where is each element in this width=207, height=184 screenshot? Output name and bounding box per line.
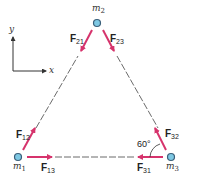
three-mass-force-diagram: y x m2 m1 m3 F21 F23 F12 F13 F32 F31 60° <box>0 0 207 184</box>
x-axis-label: x <box>49 66 54 75</box>
force-label-F31: F31 <box>137 163 151 174</box>
angle-arc-60 <box>150 144 160 157</box>
coordinate-axes <box>13 37 46 71</box>
force-label-F23: F23 <box>110 34 124 45</box>
y-axis-label: y <box>9 25 14 34</box>
force-label-F13: F13 <box>41 163 55 174</box>
force-label-F12: F12 <box>16 130 30 141</box>
mass-m2 <box>94 20 101 27</box>
diagram-canvas <box>0 0 207 184</box>
mass-label-m2: m2 <box>92 4 105 15</box>
force-label-F32: F32 <box>165 129 179 140</box>
angle-label: 60° <box>137 140 151 149</box>
mass-m3 <box>168 154 175 161</box>
edge-m1-m2 <box>36 56 78 128</box>
force-label-F21: F21 <box>70 34 84 45</box>
mass-m1 <box>15 154 22 161</box>
force-arrows <box>23 30 166 157</box>
edge-m2-m3 <box>117 56 158 128</box>
mass-label-m3: m3 <box>166 162 179 173</box>
mass-label-m1: m1 <box>13 162 26 173</box>
